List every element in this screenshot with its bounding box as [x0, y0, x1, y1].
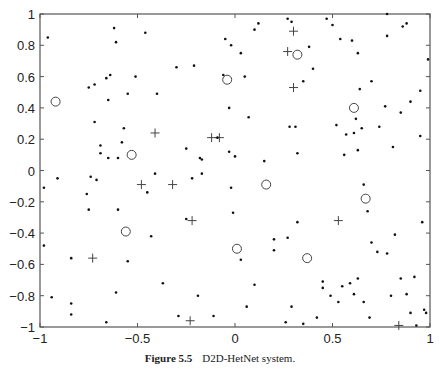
dot-marker [87, 86, 90, 89]
dot-marker [253, 283, 256, 286]
dot-marker [107, 157, 110, 160]
dot-marker [240, 258, 243, 261]
dot-marker [419, 89, 422, 92]
y-tick-label: −0.2 [9, 195, 35, 210]
dot-marker [308, 46, 311, 49]
dot-marker [302, 80, 305, 83]
dot-marker [240, 52, 243, 55]
dot-marker [316, 316, 319, 319]
dot-marker [386, 13, 389, 16]
plus-marker [168, 180, 177, 189]
y-tick-label: 0.4 [17, 101, 35, 116]
dot-marker [154, 172, 157, 175]
dot-marker [253, 28, 256, 31]
dot-marker [419, 135, 422, 138]
dot-marker [47, 36, 50, 39]
dot-marker [339, 38, 342, 41]
dot-marker [290, 305, 293, 308]
circle-marker [121, 227, 130, 236]
dot-marker [378, 125, 381, 128]
plus-marker [394, 321, 403, 330]
dot-marker [99, 152, 102, 155]
y-tick-label: 0.2 [17, 132, 35, 147]
dot-marker [201, 158, 204, 161]
dot-marker [386, 35, 389, 38]
dot-marker [366, 210, 369, 213]
dot-marker [360, 127, 363, 130]
figure-label: Figure 5.5 [145, 352, 192, 364]
dot-marker [337, 301, 340, 304]
circle-marker [349, 103, 358, 112]
dot-marker [349, 282, 352, 285]
dot-marker [351, 39, 354, 42]
dot-marker [126, 260, 129, 263]
dot-marker [415, 324, 418, 327]
x-tick-label: 0.5 [323, 331, 341, 346]
dot-marker [93, 121, 96, 124]
dot-marker [409, 312, 412, 315]
plus-marker [334, 216, 343, 225]
circle-marker [127, 150, 136, 159]
plot-border [40, 14, 430, 327]
plus-marker [188, 216, 197, 225]
dot-marker [392, 146, 395, 149]
dot-marker [70, 313, 73, 316]
circle-marker [293, 50, 302, 59]
dot-marker [386, 252, 389, 255]
circle-marker [361, 194, 370, 203]
dot-marker [409, 100, 412, 103]
dot-marker [245, 305, 248, 308]
dot-marker [243, 75, 246, 78]
dot-marker [230, 186, 233, 189]
dot-marker [43, 244, 46, 247]
dot-marker [117, 157, 120, 160]
x-tick-label: 1 [426, 331, 433, 346]
dot-marker [325, 17, 328, 20]
dot-marker [247, 116, 250, 119]
y-tick-label: −1 [20, 320, 35, 335]
dot-marker [273, 238, 276, 241]
dot-marker [405, 293, 408, 296]
dot-marker [228, 150, 231, 153]
y-tick-label: −0.8 [9, 289, 35, 304]
dot-marker [355, 118, 358, 121]
dot-marker [399, 277, 402, 280]
dot-marker [421, 221, 424, 224]
dot-marker [359, 88, 362, 91]
dot-marker [117, 208, 120, 211]
circle-marker [232, 244, 241, 253]
plus-marker [207, 133, 216, 142]
dot-marker [263, 160, 266, 163]
circle-marker [223, 75, 232, 84]
dot-marker [162, 282, 165, 285]
dot-marker [150, 235, 153, 238]
dot-marker [321, 280, 324, 283]
plus-marker [137, 180, 146, 189]
dot-marker [107, 99, 110, 102]
dot-marker [405, 22, 408, 25]
circle-marker [262, 180, 271, 189]
axes-frame [40, 14, 430, 327]
dot-marker [191, 177, 194, 180]
dot-marker [357, 277, 360, 280]
dot-marker [230, 44, 233, 47]
dot-marker [234, 155, 237, 158]
dot-marker [357, 52, 360, 55]
dot-marker [362, 183, 365, 186]
dot-marker [329, 294, 332, 297]
x-tick-label: −0.5 [125, 331, 151, 346]
dot-marker [115, 291, 118, 294]
dot-marker [144, 31, 147, 34]
data-points [43, 13, 430, 330]
axis-ticks: −1−0.500.51−1−0.8−0.6−0.4−0.200.20.40.60… [9, 7, 433, 346]
dot-marker [335, 124, 338, 127]
dot-marker [343, 154, 346, 157]
dot-marker [353, 293, 356, 296]
dot-marker [222, 74, 225, 77]
dot-marker [331, 24, 334, 27]
y-tick-label: 0.6 [17, 70, 35, 85]
dot-marker [193, 64, 196, 67]
y-tick-label: −0.6 [9, 257, 35, 272]
dot-marker [216, 136, 219, 139]
dot-marker [362, 301, 365, 304]
